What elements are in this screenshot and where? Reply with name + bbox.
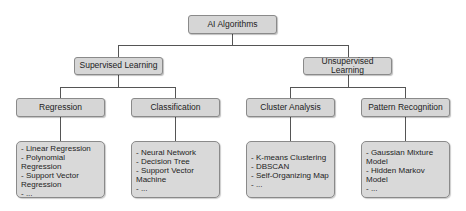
connector-cluster-leaf <box>290 117 291 141</box>
connector-to-supervised <box>118 45 119 57</box>
connector-to-pattern-recognition <box>405 87 406 98</box>
leaf-cluster-methods: - K-means Clustering - DBSCAN - Self-Org… <box>246 141 335 198</box>
leaf-item: - Polynomial Regression <box>21 153 100 171</box>
leaf-item: - Neural Network <box>136 148 215 157</box>
node-label: Unsupervised Learning <box>318 57 377 76</box>
node-label: Classification <box>150 103 200 113</box>
leaf-item: - Hidden Markov Model <box>366 166 445 184</box>
leaf-item: - DBSCAN <box>251 162 330 171</box>
connector-regression-leaf <box>60 117 61 141</box>
node-pattern-recognition: Pattern Recognition <box>361 98 450 117</box>
node-cluster-analysis: Cluster Analysis <box>246 98 335 117</box>
node-ai-algorithms: AI Algorithms <box>188 15 277 34</box>
leaf-item: - Decision Tree <box>136 157 215 166</box>
leaf-item: - Support Vector Regression <box>21 171 100 189</box>
node-label: Regression <box>39 103 82 113</box>
leaf-item: - ... <box>251 180 330 189</box>
leaf-item: - Linear Regression <box>21 144 100 153</box>
node-label: Supervised Learning <box>80 61 158 71</box>
connector-root-down <box>232 34 233 45</box>
leaf-classification-methods: - Neural Network - Decision Tree - Suppo… <box>131 141 220 198</box>
connector-to-cluster-analysis <box>290 87 291 98</box>
node-label: Cluster Analysis <box>260 103 320 113</box>
leaf-item: - K-means Clustering <box>251 153 330 162</box>
leaf-item: - ... <box>21 189 100 198</box>
leaf-item: - Self-Organizing Map <box>251 171 330 180</box>
node-label: Pattern Recognition <box>368 103 443 113</box>
leaf-item: - ... <box>136 184 215 193</box>
connector-to-regression <box>60 87 61 98</box>
leaf-item: - Gaussian Mixture Model <box>366 148 445 166</box>
connector-pattern-leaf <box>405 117 406 141</box>
connector-unsupervised-down <box>348 75 349 87</box>
node-unsupervised-learning: Unsupervised Learning <box>303 57 392 75</box>
leaf-item: - Support Vector Machine <box>136 166 215 184</box>
node-classification: Classification <box>131 98 220 117</box>
leaf-pattern-methods: - Gaussian Mixture Model - Hidden Markov… <box>361 141 450 198</box>
node-supervised-learning: Supervised Learning <box>74 57 163 75</box>
leaf-item: - ... <box>366 184 445 193</box>
node-label: AI Algorithms <box>207 20 257 30</box>
node-regression: Regression <box>16 98 105 117</box>
connector-root-branch <box>118 45 349 46</box>
connector-supervised-branch <box>60 87 176 88</box>
connector-to-classification <box>175 87 176 98</box>
connector-unsupervised-branch <box>290 87 406 88</box>
connector-supervised-down <box>118 75 119 87</box>
leaf-regression-methods: - Linear Regression - Polynomial Regress… <box>16 141 105 198</box>
connector-classification-leaf <box>175 117 176 141</box>
